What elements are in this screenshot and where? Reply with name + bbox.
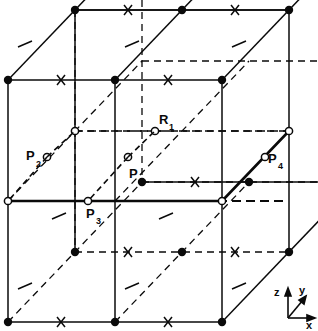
edge-tick	[232, 283, 246, 289]
edge-tick	[125, 283, 139, 289]
axis-y-line	[288, 300, 303, 318]
label-p1: R 1	[159, 112, 174, 132]
lattice-node	[111, 318, 119, 326]
lattice-node	[4, 318, 12, 326]
label-p2-sub: 2	[36, 159, 41, 169]
axis-label-y: y	[299, 284, 306, 296]
lattice-node	[178, 248, 186, 256]
lattice-node	[285, 6, 293, 14]
axes-triad: z y x	[274, 284, 315, 331]
label-p4: P 4	[268, 151, 283, 171]
label-p0-base: P	[129, 166, 138, 181]
lattice-node	[218, 318, 226, 326]
lattice-node	[71, 6, 79, 14]
label-p2-base: P	[26, 148, 35, 163]
lattice-node	[285, 248, 293, 256]
lattice-node	[245, 178, 253, 186]
edge-tick	[18, 41, 32, 47]
stencil-arm	[88, 157, 128, 201]
edge-tick	[52, 213, 66, 219]
label-p0-sub: 0	[139, 176, 144, 186]
stencil-arm	[8, 157, 47, 201]
lattice-node	[71, 248, 79, 256]
midplane-node	[218, 197, 225, 204]
label-p2: P 2	[26, 148, 41, 169]
label-p1-sub: 1	[169, 122, 174, 132]
midpoint-cross-group	[57, 0, 239, 327]
label-p3: P 3	[86, 206, 101, 226]
edge-tick	[159, 213, 173, 219]
lattice-diagram-svg: R 1 P 0 P 2 P 3 P 4 z y x	[0, 0, 318, 331]
edge-tick-group	[18, 0, 280, 289]
midplane-node	[285, 127, 292, 134]
lattice-node	[4, 76, 12, 84]
label-p1-base: R	[159, 112, 169, 127]
label-p3-sub: 3	[96, 216, 101, 226]
lattice-node	[218, 76, 226, 84]
lattice-figure: R 1 P 0 P 2 P 3 P 4 z y x	[0, 0, 318, 331]
edge-tick	[125, 41, 139, 47]
edge-tick	[232, 41, 246, 47]
axis-label-x: x	[306, 319, 313, 331]
lattice-node	[111, 76, 119, 84]
axis-label-z: z	[274, 286, 280, 298]
stencil-arm	[47, 131, 75, 157]
edge-tick	[18, 283, 32, 289]
label-p3-base: P	[86, 206, 95, 221]
label-p4-base: P	[268, 151, 277, 166]
label-p4-sub: 4	[278, 161, 283, 171]
lattice-node	[178, 6, 186, 14]
axis-z-arrow	[285, 288, 291, 296]
